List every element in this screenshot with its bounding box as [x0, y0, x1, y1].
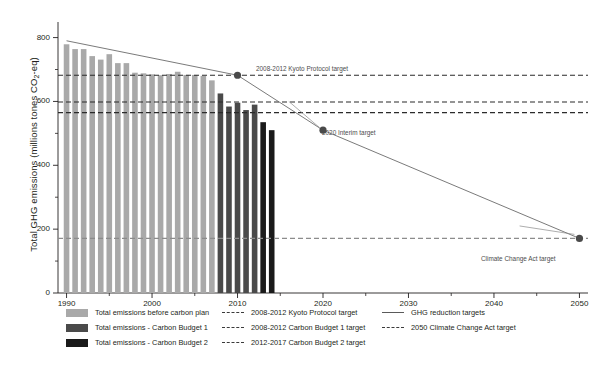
bar-2005 — [192, 75, 198, 293]
annotation-1: 2020 Interim target — [322, 129, 376, 136]
chart-figure: Total GHG emissions (millions tones CO2-… — [0, 0, 601, 371]
bar-1990 — [64, 44, 70, 293]
legend-swatch-icon — [66, 324, 88, 332]
bar-2001 — [158, 75, 164, 293]
bar-1996 — [115, 63, 121, 293]
legend-line-icon — [222, 339, 244, 347]
legend-label: Total emissions - Carbon Budget 1 — [95, 324, 208, 331]
legend-column-2: GHG reduction targets2050 Climate Change… — [382, 305, 516, 335]
legend-label: 2008-2012 Kyoto Protocol target — [251, 309, 357, 316]
bar-2009 — [226, 107, 232, 293]
chart-legend: Total emissions before carbon planTotal … — [0, 305, 601, 363]
leader-line — [289, 101, 319, 127]
legend-label: Total emissions - Carbon Budget 2 — [95, 339, 208, 346]
bar-2012 — [252, 105, 258, 293]
marker-dot — [576, 235, 583, 242]
legend-line-icon — [222, 309, 244, 317]
bar-2008 — [218, 93, 224, 293]
bar-2004 — [183, 75, 189, 293]
y-tick-label-800: 800 — [24, 33, 50, 42]
legend-item[interactable]: GHG reduction targets — [382, 305, 516, 320]
legend-label: Total emissions before carbon plan — [95, 309, 209, 316]
bar-2013 — [260, 122, 266, 293]
legend-label: 2008-2012 Carbon Budget 1 target — [251, 324, 365, 331]
legend-column-1: 2008-2012 Kyoto Protocol target2008-2012… — [222, 305, 365, 350]
bar-2006 — [201, 76, 207, 293]
bar-1991 — [72, 49, 78, 293]
bar-2002 — [166, 74, 172, 293]
legend-label: 2050 Climate Change Act target — [411, 324, 516, 331]
legend-label: 2012-2017 Carbon Budget 2 target — [251, 339, 365, 346]
legend-swatch-icon — [66, 339, 88, 347]
marker-dot — [234, 72, 241, 79]
bar-2003 — [175, 72, 181, 293]
bar-1998 — [132, 73, 138, 293]
bar-2011 — [243, 110, 249, 293]
legend-item[interactable]: Total emissions - Carbon Budget 2 — [66, 335, 209, 350]
bar-2000 — [149, 74, 155, 293]
y-tick-label-600: 600 — [24, 96, 50, 105]
legend-item[interactable]: Total emissions before carbon plan — [66, 305, 209, 320]
legend-item[interactable]: Total emissions - Carbon Budget 1 — [66, 320, 209, 335]
leader-line — [520, 226, 575, 234]
bar-2014 — [269, 130, 275, 293]
legend-item[interactable]: 2012-2017 Carbon Budget 2 target — [222, 335, 365, 350]
legend-item[interactable]: 2008-2012 Kyoto Protocol target — [222, 305, 365, 320]
legend-line-icon — [382, 309, 404, 317]
legend-line-icon — [222, 324, 244, 332]
legend-line-icon — [382, 324, 404, 332]
bar-1997 — [124, 63, 130, 293]
y-tick-label-0: 0 — [24, 288, 50, 297]
y-tick-label-200: 200 — [24, 224, 50, 233]
bar-1994 — [98, 60, 104, 293]
bar-1993 — [89, 56, 95, 293]
legend-swatch-icon — [66, 309, 88, 317]
legend-item[interactable]: 2008-2012 Carbon Budget 1 target — [222, 320, 365, 335]
legend-column-0: Total emissions before carbon planTotal … — [66, 305, 209, 350]
y-tick-label-400: 400 — [24, 160, 50, 169]
bar-1995 — [106, 54, 112, 293]
legend-label: GHG reduction targets — [411, 309, 485, 316]
annotation-0: 2008-2012 Kyoto Protocol target — [256, 65, 348, 72]
bar-1992 — [81, 49, 87, 293]
bar-2010 — [235, 103, 241, 293]
bar-1999 — [141, 73, 147, 293]
annotation-2: Climate Change Act target — [481, 255, 556, 262]
legend-item[interactable]: 2050 Climate Change Act target — [382, 320, 516, 335]
